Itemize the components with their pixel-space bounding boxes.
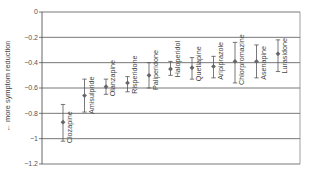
forest-chart: 0−0.2−0.4−0.6−0.8−1−1.2 ← more symptom r… — [0, 0, 314, 176]
drug-label: Clozapine — [65, 111, 74, 143]
drug-label: Haloperidol — [173, 41, 182, 78]
y-tick-label: −1 — [30, 135, 38, 142]
data-point: Lurasidone — [276, 38, 289, 74]
data-point: Amisulpride — [82, 77, 95, 115]
y-tick-label: 0 — [34, 8, 38, 15]
data-point: Chlorpromazine — [233, 34, 246, 85]
drug-label: Olanzapine — [108, 60, 117, 96]
data-point: Aripiprazole — [211, 42, 224, 80]
y-tick-label: −0.8 — [24, 110, 38, 117]
y-tick-label: −0.2 — [24, 34, 38, 41]
data-points: ClozapineAmisulprideOlanzapineRisperidon… — [61, 34, 289, 143]
drug-label: Chlorpromazine — [237, 34, 246, 85]
y-tick-label: −0.4 — [24, 59, 38, 66]
data-point: Asenapine — [254, 45, 267, 80]
data-point: Clozapine — [61, 104, 74, 143]
drug-label: Amisulpride — [87, 77, 96, 115]
drug-label: Asenapine — [259, 46, 268, 80]
gridlines — [39, 12, 300, 164]
y-tick-label: −1.2 — [24, 160, 38, 167]
drug-label: Risperidone — [130, 55, 139, 93]
drug-label: Paliperidone — [151, 50, 160, 90]
y-axis-title: ← more symptom reduction — [3, 41, 12, 132]
data-point: Quetiapine — [190, 46, 203, 81]
data-point: Haloperidol — [168, 41, 181, 78]
data-point: Risperidone — [125, 55, 138, 93]
drug-label: Quetiapine — [194, 46, 203, 81]
data-point: Olanzapine — [104, 60, 117, 96]
drug-label: Lurasidone — [280, 38, 289, 74]
drug-label: Aripiprazole — [216, 42, 225, 80]
y-tick-label: −0.6 — [24, 84, 38, 91]
data-point: Paliperidone — [147, 50, 160, 90]
